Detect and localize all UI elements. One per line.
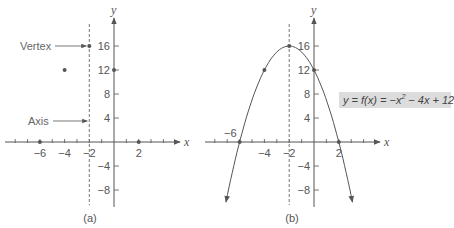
x-intercept-label: −6 [224,127,237,139]
x-axis-label-a: x [183,135,190,149]
y-tick-label-a: 4 [104,112,110,124]
x-axis-label-b: x [383,135,390,149]
data-point-b [262,68,266,72]
equation-prefix: y = f(x) = −x [343,94,401,106]
caption-a: (a) [83,212,96,224]
y-tick-label-b: −4 [297,160,310,172]
caption-b: (b) [285,212,298,224]
x-tick-label-b: −4 [258,147,271,159]
x-tick-label-a: 2 [136,147,142,159]
data-point-b [238,140,242,144]
data-point-a [137,140,141,144]
y-tick-label-a: −4 [97,160,110,172]
y-tick-label-b: 4 [304,112,310,124]
equation-label: y = f(x) = −x2 − 4x + 12 [343,93,454,106]
y-tick-label-b: 12 [298,64,310,76]
vertex-label: Vertex [20,40,52,52]
y-tick-label-a: 16 [98,40,110,52]
x-tick-label-a: −2 [83,147,96,159]
equation-suffix: − 4x + 12 [405,94,454,106]
x-tick-label-a: −6 [34,147,47,159]
y-tick-label-b: −8 [297,184,310,196]
data-point-a [63,68,67,72]
data-point-a [112,68,116,72]
data-point-b [312,68,316,72]
x-tick-label-b: −2 [283,147,296,159]
y-axis-label-b: y [310,3,317,17]
y-axis-label-a: y [110,3,117,17]
data-point-b [337,140,341,144]
data-point-a [87,44,91,48]
x-tick-label-a: −4 [58,147,71,159]
data-point-a [38,140,42,144]
axis-label: Axis [28,115,49,127]
data-point-b [287,44,291,48]
y-tick-label-a: 8 [104,88,110,100]
y-tick-label-a: 12 [98,64,110,76]
y-tick-label-b: 8 [304,88,310,100]
y-tick-label-a: −8 [97,184,110,196]
